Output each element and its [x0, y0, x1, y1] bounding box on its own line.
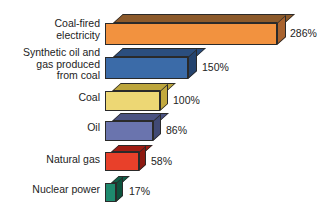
value-label: 86%: [166, 124, 187, 136]
category-label: Coal-fired electricity: [0, 18, 100, 41]
bar-front-face: [105, 183, 116, 202]
chart-row: Natural gas 58%: [0, 145, 324, 173]
bar-front-face: [105, 152, 139, 171]
bar-front-face: [105, 121, 153, 141]
chart-row: Synthetic oil and gas produced from coal…: [0, 48, 324, 80]
bar-front-face: [105, 23, 277, 45]
chart-row: Nuclear power 17%: [0, 176, 324, 204]
value-label: 58%: [151, 155, 172, 167]
category-label: Synthetic oil and gas produced from coal: [0, 47, 100, 82]
value-label: 286%: [290, 27, 317, 39]
bar-top-face: [113, 14, 295, 23]
bar-side-face: [139, 146, 146, 171]
chart-row: Coal-fired electricity 286%: [0, 14, 324, 46]
bar-chart: Coal-fired electricity 286% Synthetic oi…: [0, 0, 324, 213]
category-label: Coal: [0, 92, 100, 104]
chart-row: Coal 100%: [0, 83, 324, 113]
category-label: Oil: [0, 122, 100, 134]
value-label: 150%: [202, 61, 229, 73]
bar-top-face: [111, 145, 153, 152]
category-label: Natural gas: [0, 154, 100, 166]
value-label: 100%: [173, 94, 200, 106]
bar-front-face: [105, 57, 188, 79]
category-label: Nuclear power: [0, 184, 100, 196]
value-label: 17%: [129, 185, 150, 197]
bar-side-face: [116, 177, 123, 202]
chart-row: Oil 86%: [0, 113, 324, 143]
bar-front-face: [105, 91, 160, 111]
